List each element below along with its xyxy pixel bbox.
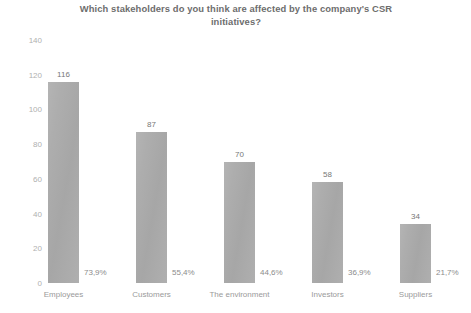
bar-percent-label: 21,7% (436, 268, 459, 277)
y-axis-tick-label: 140 (12, 36, 42, 45)
y-axis-tick-label: 20 (12, 244, 42, 253)
bar-value-label: 58 (298, 170, 358, 179)
bar-chart: Which stakeholders do you think are affe… (0, 0, 471, 313)
bar-percent-label: 44,6% (260, 268, 283, 277)
bar-value-label: 87 (122, 120, 182, 129)
y-axis-tick-label: 100 (12, 105, 42, 114)
bar-value-label: 34 (386, 212, 446, 221)
y-axis-tick-label: 40 (12, 209, 42, 218)
bar[interactable] (400, 224, 431, 283)
plot-area: 020406080100120140 11673,9%8755,4%7044,6… (0, 0, 471, 313)
bar-percent-label: 36,9% (348, 268, 371, 277)
bar-value-label: 70 (210, 150, 270, 159)
bar-percent-label: 55,4% (172, 268, 195, 277)
bar-percent-label: 73,9% (84, 268, 107, 277)
bar[interactable] (224, 162, 255, 284)
y-axis-tick-label: 0 (12, 279, 42, 288)
bar[interactable] (48, 82, 79, 283)
bar[interactable] (312, 182, 343, 283)
bar-value-label: 116 (34, 70, 94, 79)
y-axis-tick-label: 80 (12, 140, 42, 149)
x-axis-category-label: Suppliers (361, 290, 471, 299)
y-axis-tick-label: 60 (12, 174, 42, 183)
bar[interactable] (136, 132, 167, 283)
